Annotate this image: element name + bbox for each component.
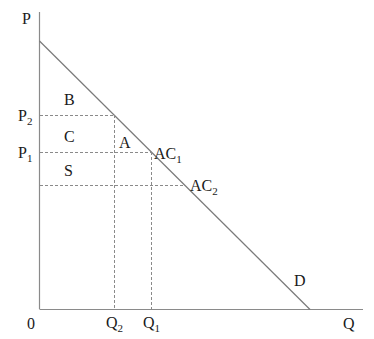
area-c-label: C xyxy=(64,128,75,145)
demand-label: D xyxy=(294,272,306,289)
economics-diagram: P Q 0 P2 P1 Q2 Q1 B C A S AC1 AC2 D xyxy=(0,0,374,339)
area-b-label: B xyxy=(64,91,75,108)
x-axis-label: Q xyxy=(343,315,355,332)
area-a-label: A xyxy=(119,134,131,151)
y-axis-label: P xyxy=(22,10,31,27)
p1-label: P1 xyxy=(18,144,32,164)
area-s-label: S xyxy=(64,162,73,179)
ac1-label: AC1 xyxy=(154,145,182,165)
demand-curve xyxy=(40,41,311,310)
p2-label: P2 xyxy=(18,107,32,127)
q2-label: Q2 xyxy=(106,314,123,334)
origin-label: 0 xyxy=(27,315,35,332)
q1-label: Q1 xyxy=(143,314,160,334)
